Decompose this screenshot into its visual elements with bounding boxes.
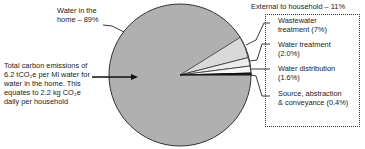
- external-header: External to household – 11%: [251, 2, 345, 11]
- label-wastewater: Wastewater treatment (7%): [278, 16, 327, 34]
- label-distribution: Water distribution (1.6%): [278, 64, 335, 82]
- label-source: Source, abstraction & conveyance (0.4%): [278, 89, 348, 107]
- label-water-in-home: Water in the home – 89%: [57, 6, 99, 24]
- label-water-treatment: Water treatment (2.0%): [278, 40, 331, 58]
- annotation-total-emissions: Total carbon emissions of 6.2 tCO₂e per …: [4, 61, 90, 106]
- leader-home: [103, 25, 124, 32]
